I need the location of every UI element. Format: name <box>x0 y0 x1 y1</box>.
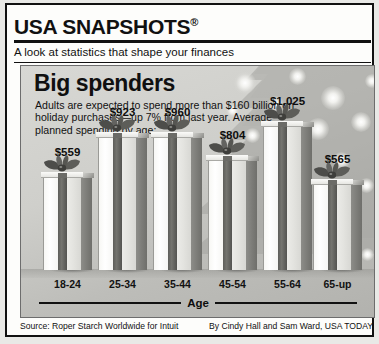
bar-65-up: $565 <box>313 163 362 270</box>
x-tick-label: 18-24 <box>43 278 92 290</box>
box-side-face <box>246 161 257 270</box>
page-title: USA SNAPSHOTS® <box>14 10 371 39</box>
box-ribbon <box>328 185 337 270</box>
header: USA SNAPSHOTS® A look at statistics that… <box>14 10 371 63</box>
box-side-face <box>136 138 147 270</box>
gift-bow-icon <box>97 115 137 135</box>
gift-bow-icon <box>312 162 352 182</box>
x-tick-label: 35-44 <box>153 278 202 290</box>
gift-bow-icon <box>152 115 192 135</box>
registered-trademark-icon: ® <box>190 16 198 28</box>
chart-background: Big spenders Adults are expected to spen… <box>21 66 374 317</box>
box-side-face <box>81 178 92 270</box>
x-axis-title: Age <box>187 297 209 309</box>
footer: Source: Roper Starch Worldwide for Intui… <box>20 321 373 331</box>
axis-rule-right <box>215 302 357 304</box>
x-tick-label: 65-up <box>313 278 362 290</box>
box-ribbon <box>113 138 122 270</box>
chart-panel: Big spenders Adults are expected to spen… <box>20 65 375 318</box>
bar-18-24: $559 <box>43 156 92 270</box>
gift-bow-icon <box>207 138 247 158</box>
box-ribbon <box>58 178 67 270</box>
source-text: Source: Roper Starch Worldwide for Intui… <box>20 321 178 331</box>
box-side-face <box>351 185 362 270</box>
box-lid-side <box>138 133 149 138</box>
box-lid-side <box>83 173 94 178</box>
box-side-face <box>301 127 312 270</box>
bar-25-34: $923 <box>98 116 147 270</box>
box-side-face <box>191 138 202 270</box>
header-tagline: A look at statistics that shape your fin… <box>14 43 371 60</box>
x-axis-title-row: Age <box>39 295 357 311</box>
bar-55-64: $1,025 <box>263 105 312 270</box>
box-lid-side <box>248 156 259 161</box>
bar-35-44: $960 <box>153 116 202 270</box>
box-lid-side <box>353 180 364 185</box>
brand-title: USA SNAPSHOTS <box>14 15 190 38</box>
x-axis-labels: 18-24 25-34 35-44 45-54 55-64 65-up <box>21 278 374 293</box>
box-ribbon <box>278 127 287 270</box>
box-lid-side <box>303 122 314 127</box>
credit-text: By Cindy Hall and Sam Ward, USA TODAY <box>209 321 373 331</box>
gift-bow-icon <box>262 104 302 124</box>
outer-frame: USA SNAPSHOTS® A look at statistics that… <box>5 3 374 337</box>
x-tick-label: 55-64 <box>263 278 312 290</box>
x-tick-label: 25-34 <box>98 278 147 290</box>
snapshot-infographic: USA SNAPSHOTS® A look at statistics that… <box>0 0 379 344</box>
box-ribbon <box>223 161 232 270</box>
x-tick-label: 45-54 <box>208 278 257 290</box>
header-rule-thin <box>14 62 371 63</box>
gift-bow-icon <box>42 155 82 175</box>
box-lid-side <box>193 133 204 138</box>
bar-45-54: $804 <box>208 139 257 270</box>
box-ribbon <box>168 138 177 270</box>
axis-rule-left <box>39 302 181 304</box>
